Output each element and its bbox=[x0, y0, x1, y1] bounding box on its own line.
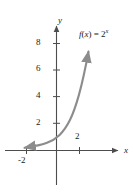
equals-sign: = bbox=[92, 29, 102, 39]
x-axis-name-label: x bbox=[124, 146, 128, 155]
x-tick-label-2: 2 bbox=[75, 132, 80, 141]
exponent-value: x bbox=[106, 27, 109, 34]
y-tick-label-4: 4 bbox=[36, 91, 41, 100]
y-tick-label-2: 2 bbox=[36, 118, 41, 127]
function-label: f(x) = 2x bbox=[79, 28, 108, 39]
y-tick-label-6: 6 bbox=[36, 64, 41, 73]
x-tick-label-neg2: -2 bbox=[18, 156, 26, 165]
y-axis-name-label: y bbox=[58, 16, 62, 25]
curve-left-arrow bbox=[25, 147, 31, 148]
y-axis bbox=[53, 26, 60, 185]
x-axis bbox=[5, 147, 118, 154]
y-tick-label-8: 8 bbox=[36, 38, 41, 47]
exponential-function-graph: 8 6 4 2 2 -2 y x f(x) = 2x bbox=[0, 0, 134, 193]
